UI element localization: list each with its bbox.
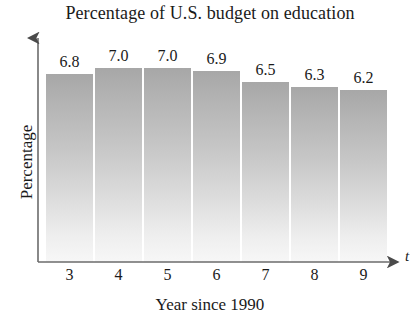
bar — [144, 68, 191, 262]
x-tick-label: 9 — [332, 266, 395, 284]
bar — [95, 68, 142, 262]
bar — [193, 71, 240, 262]
x-axis-label: Year since 1990 — [40, 295, 380, 315]
axis-variable-t: t — [405, 248, 409, 265]
bar-value-label: 6.2 — [332, 69, 395, 87]
bar — [291, 87, 338, 262]
bar — [340, 90, 387, 262]
bar-chart-figure: Percentage of U.S. budget on education P… — [0, 0, 420, 322]
bar — [242, 82, 289, 262]
bar — [46, 74, 93, 262]
plot-area: 6.837.047.056.966.576.386.29 — [0, 0, 420, 322]
